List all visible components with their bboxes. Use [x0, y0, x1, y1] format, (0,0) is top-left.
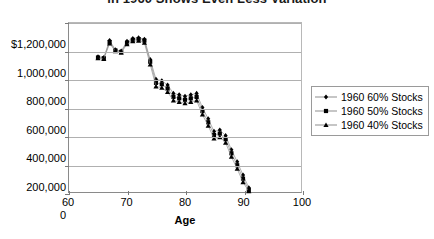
x-tick-label: 100: [293, 196, 311, 208]
x-tick-mark: [128, 191, 129, 195]
legend-label: 1960 60% Stocks: [341, 91, 423, 103]
legend-label: 1960 40% Stocks: [341, 119, 423, 131]
y-tick-mark: [65, 137, 69, 138]
gridline: [69, 23, 301, 24]
chart-root: in 1960 Shows Even Less Variation $1,200…: [0, 0, 434, 239]
x-tick-label: 70: [120, 196, 132, 208]
y-tick-label: 800,000: [26, 95, 66, 107]
y-tick-mark: [65, 23, 69, 24]
x-axis-title: Age: [68, 214, 302, 226]
x-tick-mark: [69, 191, 70, 195]
legend-item[interactable]: 1960 40% Stocks: [315, 118, 423, 132]
y-tick-label: 600,000: [26, 124, 66, 136]
y-tick-mark: [65, 80, 69, 81]
gridline: [69, 52, 301, 53]
legend-label: 1960 50% Stocks: [341, 105, 423, 117]
y-tick-label: 0: [60, 209, 66, 221]
plot-area: [68, 22, 302, 193]
gridline: [69, 137, 301, 138]
series-layer: [69, 23, 301, 192]
x-tick-mark: [186, 191, 187, 195]
gridline: [69, 109, 301, 110]
legend-marker-square-icon: [315, 106, 337, 116]
chart-legend: 1960 60% Stocks1960 50% Stocks1960 40% S…: [311, 86, 429, 136]
legend-marker-triangle-icon: [315, 120, 337, 130]
x-tick-label: 90: [237, 196, 249, 208]
series-1: [96, 35, 251, 190]
y-tick-label: 1,000,000: [17, 67, 66, 79]
y-tick-mark: [65, 166, 69, 167]
x-tick-label: 60: [62, 196, 74, 208]
y-tick-mark: [65, 52, 69, 53]
series-2: [96, 37, 251, 192]
series-line: [98, 39, 249, 190]
y-tick-label: 200,000: [26, 181, 66, 193]
y-axis-labels: $1,200,0001,000,000800,000600,000400,000…: [0, 22, 66, 193]
x-axis-labels: 60708090100: [68, 196, 304, 212]
x-tick-mark: [303, 191, 304, 195]
y-tick-label: 400,000: [26, 152, 66, 164]
series-3: [95, 38, 251, 193]
legend-item[interactable]: 1960 60% Stocks: [315, 90, 423, 104]
legend-marker-diamond-icon: [315, 92, 337, 102]
gridline: [69, 80, 301, 81]
series-line: [98, 41, 249, 192]
y-tick-mark: [65, 109, 69, 110]
x-tick-label: 80: [179, 196, 191, 208]
x-tick-mark: [245, 191, 246, 195]
legend-item[interactable]: 1960 50% Stocks: [315, 104, 423, 118]
gridline: [69, 166, 301, 167]
y-tick-label: $1,200,000: [11, 38, 66, 50]
chart-title: in 1960 Shows Even Less Variation: [0, 0, 434, 6]
